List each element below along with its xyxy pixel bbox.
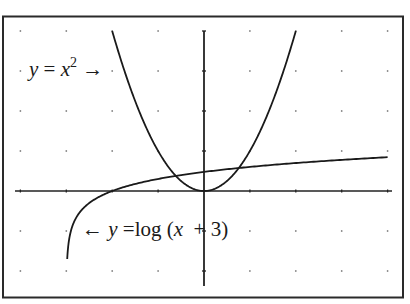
grid-dot [20,70,22,72]
grid-dot [249,70,251,72]
grid-dot [65,30,67,32]
grid-dot [157,30,159,32]
grid-dot [157,70,159,72]
grid-dot [295,230,297,232]
grid-dot [111,70,113,72]
function-plot [0,0,410,304]
log-label: ← y =log (x + 3) [82,219,228,240]
grid-dot [295,270,297,272]
grid-dot [65,150,67,152]
left-arrow-icon: ← [82,217,108,241]
grid-dot [65,270,67,272]
label-rest: + 3) [183,217,228,241]
grid-dot [249,230,251,232]
grid-dot [111,270,113,272]
grid-dot [20,30,22,32]
grid-dot [20,270,22,272]
label-x-var: x [174,217,183,241]
grid-dot [249,270,251,272]
parabola-label: y = x2 → [29,59,103,80]
grid-dot [111,110,113,112]
grid-dot [341,70,343,72]
label-equals: = [38,57,60,81]
grid-dot [341,110,343,112]
label-y-var: y [108,217,117,241]
grid-dot [387,30,389,32]
grid-dot [341,150,343,152]
grid-dot [295,110,297,112]
label-exponent: 2 [70,55,77,70]
grid-dot [387,70,389,72]
grid-dot [387,270,389,272]
label-equals-log: =log ( [118,217,174,241]
grid-dot [341,30,343,32]
grid-dot [295,70,297,72]
grid-dot [341,230,343,232]
label-y-var: y [29,57,38,81]
grid-dot [65,110,67,112]
grid-dot [341,270,343,272]
grid-dot [111,150,113,152]
grid-dot [387,110,389,112]
grid-dot [387,230,389,232]
grid-dot [295,150,297,152]
grid-dot [20,230,22,232]
grid-dot [20,150,22,152]
grid-dot [387,150,389,152]
grid-dot [249,30,251,32]
grid-dot [65,230,67,232]
grid-dot [20,110,22,112]
grid-dot [249,110,251,112]
grid-dot [157,110,159,112]
log-curve [67,157,387,259]
grid-dot [157,270,159,272]
right-arrow-icon: → [77,57,103,81]
label-x-var: x [61,57,70,81]
